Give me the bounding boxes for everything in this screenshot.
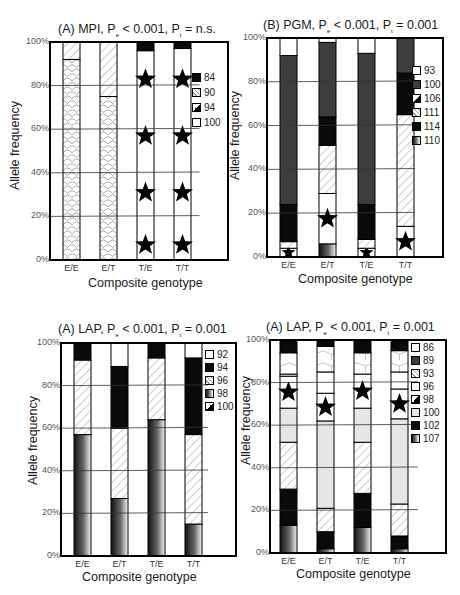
legend-swatch-icon [411, 421, 420, 430]
legend-label: 86 [423, 342, 434, 353]
legend-label: 98 [423, 394, 434, 405]
bar-segment [354, 493, 371, 527]
legend-swatch-icon [411, 356, 420, 365]
legend-swatch-icon [411, 395, 420, 404]
plot-area [0, 0, 460, 595]
legend-item: 102 [411, 420, 440, 431]
legend-item: 100 [411, 407, 440, 418]
bar-segment [280, 442, 297, 489]
legend-swatch-icon [411, 434, 420, 443]
bar-segment [280, 525, 297, 553]
legend-item: 86 [411, 342, 434, 353]
legend-label: 96 [423, 381, 434, 392]
bar-segment [354, 527, 371, 553]
bar-segment [391, 419, 408, 504]
bar-segment [391, 504, 408, 536]
legend-item: 107 [411, 433, 440, 444]
bar-segment [354, 442, 371, 493]
bar-segment [391, 351, 408, 372]
legend-item: 93 [411, 368, 434, 379]
bar-segment [280, 489, 297, 525]
bar-segment [354, 408, 371, 442]
bar-segment [354, 340, 371, 353]
legend-item: 96 [411, 381, 434, 392]
bar-segment [280, 340, 297, 353]
legend-label: 100 [423, 407, 440, 418]
legend-item: 89 [411, 355, 434, 366]
legend-label: 93 [423, 368, 434, 379]
bar-segment [317, 532, 334, 549]
legend-item: 98 [411, 394, 434, 405]
bar-segment [317, 346, 334, 372]
legend-label: 107 [423, 433, 440, 444]
legend-swatch-icon [411, 382, 420, 391]
bar-segment [391, 340, 408, 351]
bar-segment [391, 372, 408, 389]
legend-swatch-icon [411, 369, 420, 378]
bar-segment [354, 353, 371, 374]
legend-label: 89 [423, 355, 434, 366]
bar-segment [317, 421, 334, 508]
bar-segment [280, 353, 297, 374]
bar-segment [317, 508, 334, 531]
legend-swatch-icon [411, 408, 420, 417]
bar-segment [391, 536, 408, 549]
legend-swatch-icon [411, 343, 420, 352]
legend-label: 102 [423, 420, 440, 431]
